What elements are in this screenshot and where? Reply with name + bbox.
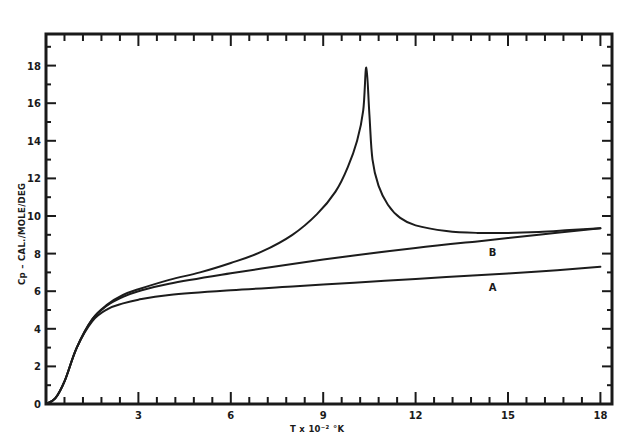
x-axis-label: T x 10⁻² °K bbox=[290, 424, 344, 434]
x-tick-label: 12 bbox=[409, 410, 423, 421]
y-tick-label: 10 bbox=[27, 211, 41, 222]
y-tick-label: 0 bbox=[34, 399, 41, 410]
y-axis-label: Cp – CAL./MOLE/DEG bbox=[17, 183, 27, 285]
y-tick-label: 18 bbox=[27, 61, 41, 72]
y-tick-label: 8 bbox=[34, 249, 41, 260]
y-tick-label: 16 bbox=[27, 98, 41, 109]
curve-label-a: A bbox=[489, 282, 497, 293]
x-tick-label: 3 bbox=[135, 410, 142, 421]
y-tick-label: 4 bbox=[34, 324, 41, 335]
y-tick-label: 6 bbox=[34, 286, 41, 297]
heat-capacity-chart: 369121518024681012141618 BA T x 10⁻² °K … bbox=[0, 0, 622, 448]
y-tick-label: 12 bbox=[27, 173, 41, 184]
y-tick-label: 14 bbox=[27, 136, 41, 147]
chart-background bbox=[0, 0, 622, 448]
x-tick-label: 15 bbox=[501, 410, 515, 421]
curve-label-b: B bbox=[489, 247, 497, 258]
x-tick-label: 6 bbox=[227, 410, 234, 421]
y-tick-label: 2 bbox=[34, 361, 41, 372]
x-tick-label: 18 bbox=[593, 410, 607, 421]
x-tick-label: 9 bbox=[320, 410, 327, 421]
